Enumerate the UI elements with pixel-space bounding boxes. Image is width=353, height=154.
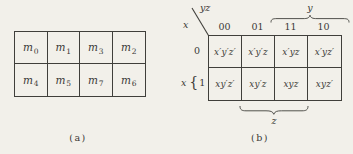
- minterm-symbol: m: [23, 42, 33, 53]
- minterm-subscript: 1: [66, 48, 71, 56]
- kmap-col-header-10: 10: [307, 21, 340, 33]
- minterm-symbol: m: [88, 42, 98, 53]
- minterm-cell-m0: m0: [15, 32, 48, 64]
- minterm-cell-m7: m7: [80, 64, 113, 96]
- minterm-subscript: 4: [34, 80, 39, 88]
- minterm-cell-m6: m6: [113, 64, 146, 96]
- kmap-cell-r1c3: xyz′: [308, 68, 341, 100]
- minterm-symbol: m: [23, 75, 33, 86]
- kmap-cell-r1c0: xy′z′: [209, 68, 242, 100]
- minterm-cell-m2: m2: [113, 32, 146, 64]
- kmap-cell-r1c1: xy′z: [242, 68, 275, 100]
- minterm-cell-m1: m1: [48, 32, 81, 64]
- minterm-cell-m4: m4: [15, 64, 48, 96]
- x-row-group: x { 1: [181, 73, 205, 91]
- minterm-symbol: m: [88, 75, 98, 86]
- minterm-subscript: 6: [132, 80, 137, 88]
- kmap-cell-r0c3: x′yz′: [308, 36, 341, 68]
- kmap-col-header-00: 00: [208, 21, 241, 33]
- minterm-cell-m5: m5: [48, 64, 81, 96]
- y-group-label: y: [301, 3, 319, 13]
- z-group-label: z: [264, 115, 284, 126]
- kmap-column-axis-label: yz: [200, 3, 210, 13]
- caption-b: (b): [240, 132, 280, 144]
- kmap-col-header-11: 11: [274, 21, 307, 33]
- minterm-table: m0 m1 m3 m2 m4 m5 m7 m6: [14, 31, 146, 97]
- kmap-col-header-01: 01: [241, 21, 274, 33]
- kmap-cell-r0c0: x′y′z′: [209, 36, 242, 68]
- minterm-subscript: 0: [34, 48, 39, 56]
- kmap-cell-r0c2: x′yz: [275, 36, 308, 68]
- kmap-cell-r0c1: x′y′z: [242, 36, 275, 68]
- minterm-symbol: m: [55, 42, 65, 53]
- caption-a: (a): [58, 132, 98, 144]
- minterm-symbol: m: [55, 75, 65, 86]
- z-group-brace: [240, 106, 308, 114]
- x-group-label: x: [181, 77, 186, 88]
- x-group-brace: {: [189, 74, 198, 90]
- kmap-row-axis-label: x: [183, 20, 188, 30]
- figure-canvas: m0 m1 m3 m2 m4 m5 m7 m6 (a) yz x 00 01 1…: [0, 0, 353, 154]
- minterm-symbol: m: [121, 42, 131, 53]
- kmap-cell-r1c2: xyz: [275, 68, 308, 100]
- minterm-symbol: m: [121, 75, 131, 86]
- kmap-row-label-0: 0: [186, 45, 200, 56]
- kmap-table: x′y′z′ x′y′z x′yz x′yz′ xy′z′ xy′z xyz x…: [208, 35, 342, 101]
- minterm-subscript: 5: [66, 80, 71, 88]
- kmap-row-label-1: 1: [199, 77, 205, 88]
- minterm-subscript: 3: [99, 48, 104, 56]
- minterm-subscript: 2: [132, 48, 137, 56]
- minterm-cell-m3: m3: [80, 32, 113, 64]
- minterm-subscript: 7: [99, 80, 104, 88]
